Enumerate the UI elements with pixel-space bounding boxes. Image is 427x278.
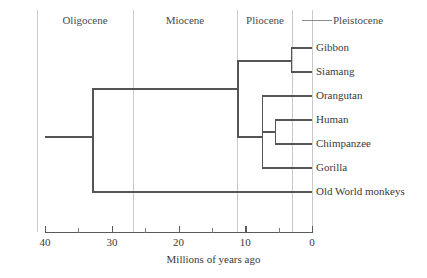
branch-orangutan-tip	[262, 95, 312, 97]
axis-tick-25	[145, 228, 146, 233]
axis-tick-label-30: 30	[98, 236, 126, 248]
branch-hylobatid-stem	[237, 60, 292, 62]
branch-apes-node-vertical	[237, 61, 239, 138]
tip-label-gibbon: Gibbon	[316, 42, 349, 53]
epoch-divider-present	[312, 10, 313, 232]
pleistocene-leader-line	[302, 20, 332, 21]
tip-label-siamang: Siamang	[316, 66, 355, 77]
epoch-divider-oligocene-left	[37, 10, 38, 232]
branch-root-vertical	[92, 89, 94, 193]
branch-apes-stem	[92, 88, 238, 90]
branch-siamang-tip	[291, 71, 312, 73]
axis-title: Millions of years ago	[0, 253, 427, 265]
axis-tick-35	[78, 228, 79, 233]
phylogenetic-tree-figure: Oligocene Miocene Pliocene Pleistocene G…	[0, 0, 427, 278]
branch-great-ape-stem	[237, 136, 263, 138]
tip-label-old-world-monkeys: Old World monkeys	[316, 186, 405, 197]
axis-tick-10	[245, 226, 246, 233]
branch-chimpanzee-tip	[275, 143, 312, 145]
tip-label-human: Human	[316, 114, 348, 125]
branch-gibbon-siamang-vertical	[291, 48, 293, 73]
axis-tick-15	[212, 228, 213, 233]
branch-human-tip	[275, 119, 312, 121]
branch-gibbon-tip	[291, 47, 312, 49]
axis-tick-label-20: 20	[165, 236, 193, 248]
epoch-label-miocene: Miocene	[145, 14, 225, 26]
axis-tick-label-40: 40	[31, 236, 59, 248]
axis-tick-label-0: 0	[298, 236, 326, 248]
axis-tick-40	[45, 226, 46, 233]
epoch-divider-oligocene-miocene	[133, 10, 134, 232]
tip-label-chimpanzee: Chimpanzee	[316, 138, 371, 149]
axis-tick-5	[279, 228, 280, 233]
axis-tick-label-10: 10	[231, 236, 259, 248]
axis-tick-0	[312, 226, 313, 233]
branch-gorilla-tip	[262, 167, 312, 169]
epoch-label-pleistocene: Pleistocene	[333, 14, 383, 26]
epoch-label-pliocene: Pliocene	[239, 14, 291, 26]
tip-label-gorilla: Gorilla	[316, 162, 347, 173]
branch-human-chimp-vertical	[275, 120, 277, 145]
branch-old-world-monkeys	[92, 191, 312, 193]
branch-root-stem	[45, 136, 93, 138]
epoch-divider-pliocene-pleistocene	[292, 10, 293, 232]
epoch-label-oligocene: Oligocene	[45, 14, 125, 26]
axis-tick-30	[112, 226, 113, 233]
axis-tick-20	[179, 226, 180, 233]
tip-label-orangutan: Orangutan	[316, 90, 362, 101]
